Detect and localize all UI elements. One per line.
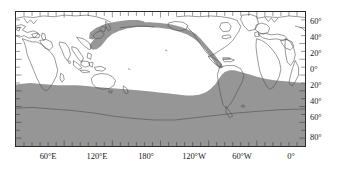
xtick-label-0: 0° bbox=[287, 152, 294, 161]
shaded-regions bbox=[16, 20, 305, 146]
coastline-africa bbox=[22, 39, 57, 91]
map-plot-area bbox=[15, 11, 306, 147]
ytick-label-20n: 20° bbox=[310, 49, 322, 58]
coastline-north-america-arctic bbox=[177, 16, 238, 21]
coastline-great-lakes bbox=[222, 35, 231, 39]
coastline-hudson-bay bbox=[220, 22, 231, 31]
xtick-label-60w: 60°W bbox=[232, 152, 252, 161]
ytick-label-80s: 80° bbox=[310, 133, 322, 142]
coastline-caribbean bbox=[223, 59, 234, 62]
xtick-label-120w: 120°W bbox=[182, 152, 206, 161]
ytick-label-40n: 40° bbox=[310, 33, 322, 42]
coastline-mediterranean bbox=[258, 33, 287, 40]
coastline-india bbox=[59, 42, 70, 61]
ytick-label-40s: 40° bbox=[310, 97, 322, 106]
coastline-java bbox=[80, 70, 90, 72]
coastline-sumatra bbox=[74, 61, 82, 70]
coastline-iberia bbox=[255, 32, 259, 37]
coastline-caspian bbox=[42, 33, 46, 40]
coastline-new-guinea bbox=[95, 66, 106, 71]
coastline-china-coast bbox=[77, 37, 91, 50]
coastline-europe bbox=[16, 25, 38, 38]
coastline-pacific-islands bbox=[128, 69, 130, 70]
coastline-asia-right bbox=[295, 26, 305, 31]
map-svg bbox=[16, 12, 305, 146]
coastline-madagascar bbox=[60, 73, 64, 82]
coastline-eurasia-north bbox=[16, 15, 111, 22]
coastline-sri-lanka bbox=[68, 61, 70, 64]
ytick-label-60s: 60° bbox=[310, 113, 322, 122]
coastline-indochina bbox=[72, 47, 83, 63]
coastline-borneo bbox=[81, 61, 90, 67]
coastline-sulawesi bbox=[90, 62, 93, 67]
xtick-label-180: 180° bbox=[138, 152, 154, 161]
ytick-label-20s: 20° bbox=[310, 81, 322, 90]
coastline-hawaii bbox=[165, 50, 167, 51]
coastline-philippines bbox=[87, 53, 91, 59]
coastline-africa-west-right bbox=[285, 39, 295, 66]
coastline-eurasia-right bbox=[257, 16, 305, 18]
coastline-europe-right bbox=[255, 23, 269, 34]
ytick-label-0: 0° bbox=[310, 65, 317, 74]
coastline-north-america-east bbox=[209, 21, 241, 56]
coastline-scandinavia bbox=[24, 18, 37, 24]
xtick-label-120e: 120°E bbox=[87, 152, 108, 161]
world-map-figure: 60° 40° 20° 0° 20° 40° 60° 80° 60°E 120°… bbox=[0, 0, 346, 169]
ytick-label-60n: 60° bbox=[310, 17, 322, 26]
xtick-label-60e: 60°E bbox=[40, 152, 57, 161]
